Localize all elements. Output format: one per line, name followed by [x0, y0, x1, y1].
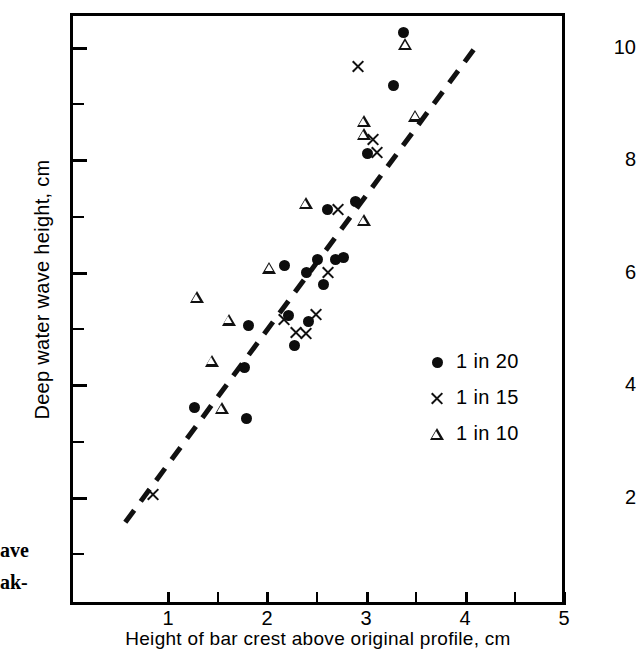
filled-circle-icon: [432, 357, 443, 368]
trend-line: [0, 0, 636, 658]
cross-icon: [430, 391, 445, 406]
open-triangle-icon: [430, 428, 444, 440]
legend-label-2: 1 in 10: [456, 422, 519, 445]
legend-label-0: 1 in 20: [456, 350, 519, 373]
legend-label-1: 1 in 15: [456, 386, 519, 409]
figure: 10 8 6 4 2 1 2 3 4 5 Deep water wave hei…: [0, 0, 636, 658]
